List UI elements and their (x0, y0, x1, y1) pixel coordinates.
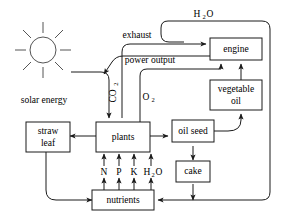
flow-solar-to-plants (71, 72, 109, 118)
energy-cycle-diagram: solar energy H 2 O exhaust CO 2 power ou… (0, 0, 284, 220)
svg-text:2: 2 (151, 96, 154, 103)
o2-label: O 2 (143, 92, 155, 103)
svg-text:straw: straw (38, 126, 59, 136)
svg-text:H: H (194, 9, 201, 19)
box-oil-seed[interactable]: oil seed (172, 120, 214, 142)
box-plants[interactable]: plants (96, 122, 150, 152)
svg-text:O: O (156, 167, 163, 177)
svg-text:oil seed: oil seed (178, 126, 208, 136)
power-output-label: power output (125, 55, 176, 65)
svg-text:engine: engine (223, 44, 248, 54)
svg-text:plants: plants (112, 132, 135, 142)
phosphorus-label: P (116, 167, 121, 177)
box-nutrients[interactable]: nutrients (92, 190, 154, 210)
flow-oilseed-to-vegoil (214, 114, 241, 131)
solar-energy-label: solar energy (21, 95, 68, 105)
svg-text:nutrients: nutrients (106, 195, 140, 205)
box-straw-leaf[interactable]: straw leaf (26, 122, 70, 152)
svg-text:2: 2 (202, 13, 205, 20)
svg-text:O: O (143, 92, 150, 102)
co2-label: CO 2 (108, 82, 119, 102)
flow-strawleaf-to-nutrients (46, 152, 92, 200)
box-cake[interactable]: cake (176, 161, 210, 182)
svg-text:2: 2 (151, 171, 154, 178)
h2o-top-label: H 2 O (194, 9, 214, 20)
svg-text:H: H (144, 167, 151, 177)
water-label: H 2 O (144, 167, 163, 178)
box-engine[interactable]: engine (210, 38, 262, 60)
exhaust-label: exhaust (122, 30, 151, 40)
svg-text:leaf: leaf (41, 138, 56, 148)
nitrogen-label: N (101, 167, 108, 177)
box-vegetable-oil[interactable]: vegetable oil (210, 80, 262, 110)
sun-icon (15, 22, 71, 78)
potassium-label: K (131, 167, 138, 177)
svg-text:O: O (207, 9, 214, 19)
svg-text:CO: CO (108, 89, 118, 102)
svg-text:vegetable: vegetable (218, 84, 254, 94)
svg-text:2: 2 (112, 82, 119, 85)
svg-text:oil: oil (231, 96, 241, 106)
svg-text:cake: cake (184, 166, 201, 176)
flow-o2 (140, 64, 221, 122)
